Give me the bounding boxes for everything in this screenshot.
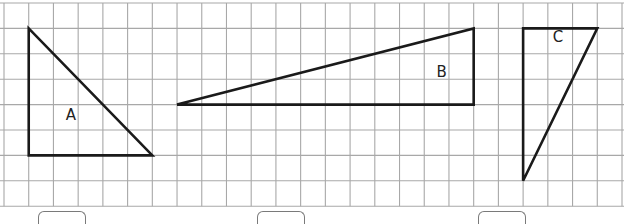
- grid-diagram: ABC: [0, 0, 624, 224]
- triangle-outline: [29, 28, 153, 155]
- answer-box-c[interactable]: [478, 211, 526, 224]
- triangle-label: A: [66, 106, 77, 124]
- triangle-label: B: [437, 63, 447, 81]
- triangle-a: A: [29, 28, 153, 155]
- answer-box-b[interactable]: [257, 211, 305, 224]
- triangle-label: C: [553, 28, 563, 46]
- answer-box-a[interactable]: [38, 211, 86, 224]
